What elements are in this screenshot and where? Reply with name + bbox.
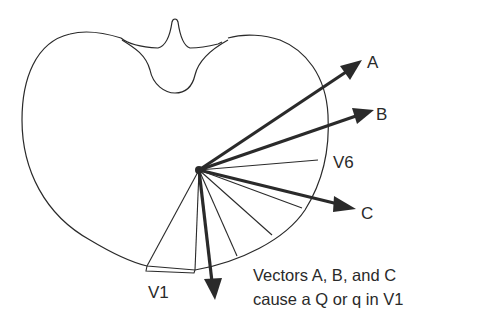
lead-v6-label: V6 — [333, 153, 354, 172]
caption-line-1: Vectors A, B, and C — [253, 266, 396, 284]
vector-b-arrowhead — [352, 108, 374, 124]
chest-vector-diagram: A B C V6 V1 Vectors A, B, and C cause a … — [0, 0, 478, 333]
chest-outline — [22, 32, 328, 270]
vector-b-label: B — [376, 105, 387, 124]
vector-a-shaft — [199, 72, 346, 170]
vector-down-arrowhead — [204, 278, 222, 300]
lead-v1-label: V1 — [148, 283, 169, 302]
vertebra-outline — [121, 19, 222, 48]
vector-a-arrowhead — [340, 60, 362, 80]
vertebra-body — [122, 40, 228, 93]
vector-c-label: C — [361, 204, 373, 223]
vector-c-arrowhead — [333, 196, 356, 212]
caption-line-2: cause a Q or q in V1 — [253, 290, 403, 308]
vector-down-shaft — [199, 170, 212, 282]
vector-a-label: A — [367, 53, 379, 72]
